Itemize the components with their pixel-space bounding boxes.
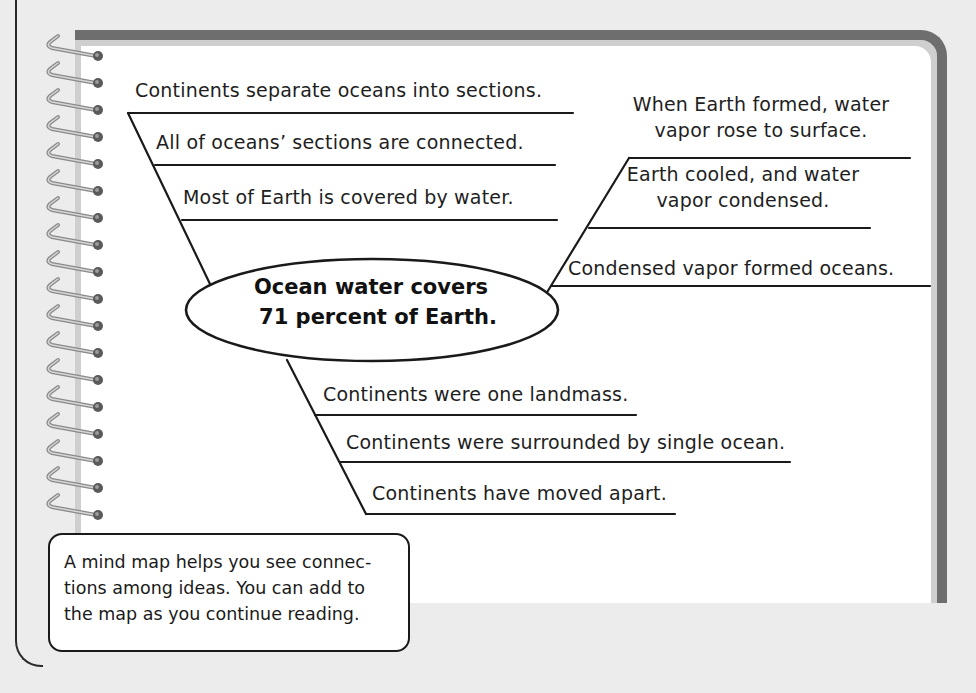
branch-label: All of oceans’ sections are connected. [156, 131, 524, 153]
branch-label: Condensed vapor formed oceans. [568, 257, 894, 279]
branch-label: Earth cooled, and water vapor condensed. [618, 163, 868, 211]
branch-label: Continents were surrounded by single oce… [346, 431, 785, 453]
branch-label-line: When Earth formed, water [600, 93, 922, 115]
branch-label: Continents separate oceans into sections… [135, 79, 542, 101]
branch-label-line: vapor condensed. [618, 189, 868, 211]
branch-label: When Earth formed, water vapor rose to s… [600, 93, 922, 141]
callout-line: the map as you continue reading. [64, 601, 398, 627]
callout-line: tions among ideas. You can add to [64, 575, 398, 601]
branch-label: Continents were one landmass. [323, 383, 628, 405]
branch-label-line: Earth cooled, and water [618, 163, 868, 185]
callout-note: A mind map helps you see connec- tions a… [48, 533, 410, 652]
central-idea-line: 71 percent of Earth. [196, 302, 546, 332]
central-idea: Ocean water covers 71 percent of Earth. [196, 272, 546, 332]
callout-line: A mind map helps you see connec- [64, 549, 398, 575]
branch-label: Most of Earth is covered by water. [183, 186, 514, 208]
branch-label-line: vapor rose to surface. [600, 119, 922, 141]
branch-label: Continents have moved apart. [372, 482, 667, 504]
central-idea-line: Ocean water covers [196, 272, 546, 302]
